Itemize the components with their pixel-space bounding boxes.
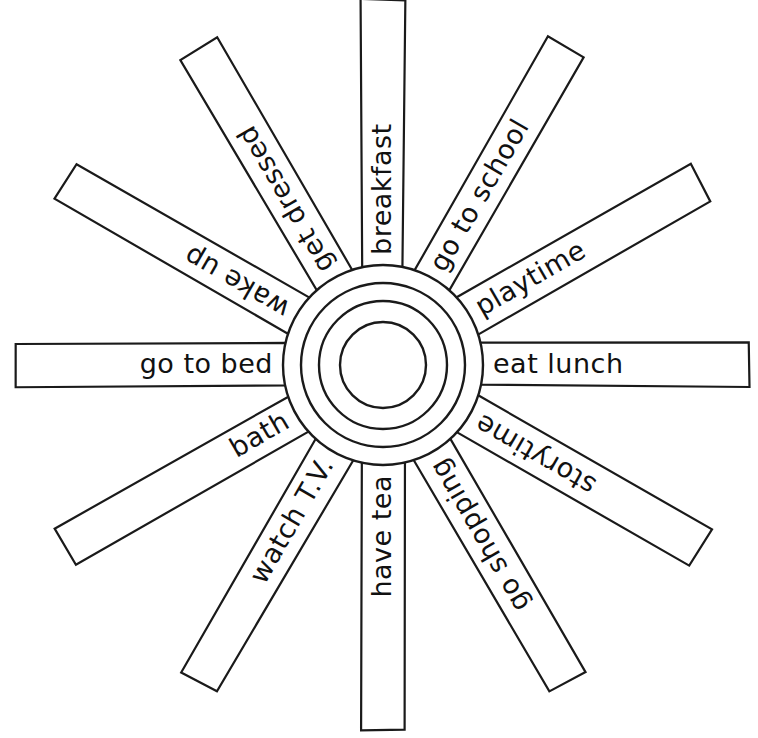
spoke-label-eat-lunch: eat lunch	[493, 348, 624, 379]
spoke-label-go-shopping: go shopping	[423, 454, 536, 618]
daily-routine-wheel-diagram: breakfastgo to schoolplaytimeeat lunchst…	[0, 0, 758, 738]
spoke-label-go-to-school: go to school	[423, 113, 535, 276]
wheel-canvas: breakfastgo to schoolplaytimeeat lunchst…	[0, 0, 758, 738]
spoke-label-breakfast: breakfast	[366, 123, 397, 255]
hub-circle-4	[340, 322, 426, 408]
hub-layer	[283, 265, 483, 465]
spoke-label-watch-t-v: watch T.V.	[243, 452, 340, 589]
spoke-label-get-dressed: get dressed	[231, 120, 340, 278]
spoke-label-have-tea: have tea	[366, 475, 397, 598]
spoke-label-go-to-bed: go to bed	[140, 348, 273, 379]
